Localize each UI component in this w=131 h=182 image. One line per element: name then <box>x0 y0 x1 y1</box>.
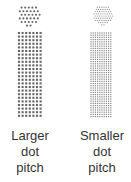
dot-panel-larger <box>18 7 42 117</box>
label-line: dot <box>0 144 60 160</box>
label-line: Smaller <box>72 128 131 144</box>
label-line: dot <box>72 144 131 160</box>
dot-panel-smaller <box>90 7 113 118</box>
label-line: pitch <box>0 160 60 176</box>
label-line: pitch <box>72 160 131 176</box>
label-larger-dot-pitch: Larger dot pitch <box>0 128 60 176</box>
label-line: Larger <box>0 128 60 144</box>
label-smaller-dot-pitch: Smaller dot pitch <box>72 128 131 176</box>
